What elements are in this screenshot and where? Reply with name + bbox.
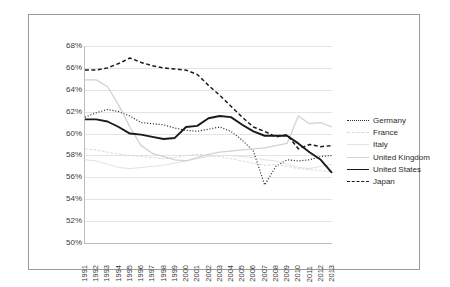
x-axis-tick-label: 1993 [103, 265, 111, 282]
x-axis-line [84, 243, 332, 244]
legend-item-france[interactable]: France [347, 127, 445, 139]
x-axis-tick-label: 2008 [272, 265, 280, 282]
x-axis-tick-label: 2004 [227, 265, 235, 282]
x-axis-tick-label: 1991 [81, 265, 89, 282]
x-axis-tick-label: 2002 [205, 265, 213, 282]
x-axis-tick-label: 2007 [261, 265, 269, 282]
x-axis-tick-label: 1995 [126, 265, 134, 282]
x-axis-tick-label: 2000 [182, 265, 190, 282]
x-axis-tick-label: 2005 [238, 265, 246, 282]
y-axis-tick-label: 54% [66, 195, 82, 203]
legend-item-label: France [373, 129, 398, 137]
y-axis-labels: 68%66%64%62%60%58%56%54%52%50% [55, 46, 82, 243]
series-line [85, 58, 332, 149]
x-axis-tick-label: 2012 [317, 265, 325, 282]
series-layer [85, 46, 332, 243]
legend-item-label: Japan [373, 178, 395, 186]
y-axis-tick-label: 66% [66, 64, 82, 72]
y-axis-tick-label: 68% [66, 42, 82, 50]
legend-item-italy[interactable]: Italy [347, 139, 445, 151]
y-axis-line [84, 46, 85, 243]
y-axis-tick-label: 50% [66, 239, 82, 247]
y-axis-tick-label: 64% [66, 86, 82, 94]
y-axis-tick-label: 58% [66, 151, 82, 159]
chart-legend: GermanyFranceItalyUnited KingdomUnited S… [347, 115, 445, 188]
y-axis-tick-label: 62% [66, 108, 82, 116]
x-axis-tick-label: 1994 [115, 265, 123, 282]
legend-item-label: Germany [373, 117, 406, 125]
x-axis-tick-label: 1998 [160, 265, 168, 282]
x-axis-labels: 1991199219931994199519961997199819992000… [85, 246, 332, 282]
series-line [85, 80, 332, 161]
legend-item-united-states[interactable]: United States [347, 164, 445, 176]
series-line [85, 155, 332, 168]
series-line [85, 109, 332, 185]
x-axis-tick-label: 1997 [148, 265, 156, 282]
x-axis-tick-label: 2009 [283, 265, 291, 282]
legend-item-label: United States [373, 166, 421, 174]
x-axis-tick-label: 2001 [193, 265, 201, 282]
legend-item-united-kingdom[interactable]: United Kingdom [347, 152, 445, 164]
legend-item-germany[interactable]: Germany [347, 115, 445, 127]
plot-area [85, 46, 332, 243]
y-axis-tick-label: 60% [66, 130, 82, 138]
x-axis-tick-label: 2011 [306, 266, 314, 282]
legend-item-label: Italy [373, 141, 388, 149]
chart-frame: 68%66%64%62%60%58%56%54%52%50% 199119921… [28, 14, 420, 270]
y-axis-tick-label: 56% [66, 173, 82, 181]
legend-item-label: United Kingdom [373, 154, 430, 162]
x-axis-tick-label: 1996 [137, 265, 145, 282]
y-axis-tick-label: 52% [66, 217, 82, 225]
x-axis-tick-label: 2003 [216, 265, 224, 282]
x-axis-tick-label: 2013 [328, 265, 336, 282]
series-line [85, 149, 332, 172]
x-axis-tick-label: 1992 [92, 265, 100, 282]
legend-item-japan[interactable]: Japan [347, 176, 445, 188]
x-axis-tick-label: 2010 [294, 265, 302, 282]
x-axis-tick-label: 1999 [171, 265, 179, 282]
x-axis-tick-label: 2006 [249, 265, 257, 282]
